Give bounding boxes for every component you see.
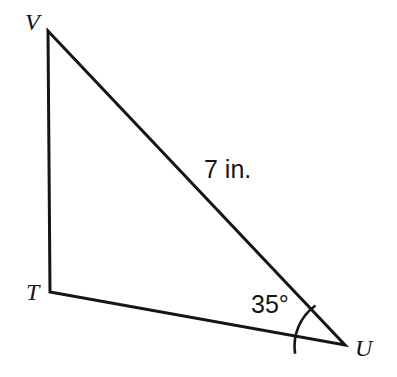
vertex-label-u: U xyxy=(355,336,372,360)
geometry-figure: V T U 7 in. 35° xyxy=(0,0,397,377)
side-length-label-vu: 7 in. xyxy=(204,157,251,182)
vertex-label-t: T xyxy=(26,280,39,304)
triangle-outline xyxy=(48,31,345,345)
vertex-label-v: V xyxy=(25,10,40,34)
triangle-drawing xyxy=(0,0,397,377)
angle-arc-u-icon xyxy=(295,306,316,354)
angle-measure-label-u: 35° xyxy=(251,292,289,317)
